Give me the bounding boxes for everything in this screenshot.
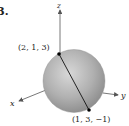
y-axis-label: y — [120, 91, 126, 100]
point-endpoint-1 — [57, 52, 61, 56]
sphere-diagram: 3. x y z (2, 1, 3) (1, 3, −1) — [0, 0, 129, 126]
z-axis-label: z — [56, 2, 61, 10]
point-label-1: (2, 1, 3) — [18, 43, 50, 52]
x-axis-label: x — [10, 99, 15, 108]
problem-number: 3. — [0, 5, 8, 18]
sphere — [43, 50, 105, 113]
point-label-2: (1, 3, −1) — [72, 115, 110, 124]
y-axis — [103, 93, 118, 95]
x-axis — [19, 90, 46, 101]
point-endpoint-2 — [87, 108, 91, 112]
